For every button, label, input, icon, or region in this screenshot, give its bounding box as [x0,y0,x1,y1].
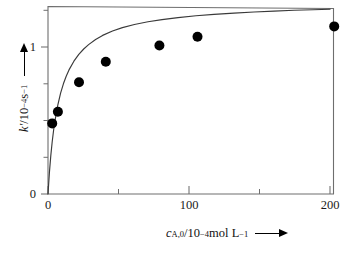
x-axis-label-units-exponent: −1 [239,229,248,239]
y-axis-label-units: s [17,94,32,99]
y-tick-label: 0 [30,187,36,201]
figure-container: 0 100 200 0 1 cA,0/10−4 mol L−1 k [0,0,348,254]
arrow-right-icon [255,229,289,238]
x-axis-label-divider: /10 [184,226,200,241]
x-axis-major-ticks [48,186,330,194]
fit-curve [48,9,330,194]
y-axis-label-divider: /10 [17,108,32,124]
y-axis-label-units-exponent: −1 [19,85,29,94]
plot-frame [48,7,334,195]
y-axis-minor-ticks [44,10,49,157]
y-axis-label: k′/10−4s−1 [14,8,34,132]
data-point [47,118,57,128]
x-axis-label-units: mol L [209,226,239,241]
data-point [74,77,84,87]
arrow-up-icon [20,42,29,76]
y-axis-label-exponent: −4 [19,99,29,108]
y-axis-label-symbol: k′ [17,124,32,132]
x-tick-label: 100 [180,198,199,212]
x-tick-label: 200 [321,198,340,212]
data-point [329,21,339,31]
data-point [154,41,164,51]
data-point [101,57,111,67]
data-point [193,32,203,42]
x-tick-label: 0 [45,198,51,212]
x-axis-label: cA,0/10−4 mol L−1 [166,226,289,241]
x-axis-label-exponent: −4 [200,229,209,239]
data-points [47,21,339,128]
x-axis-label-subscript: A,0 [172,229,185,239]
saturation-kinetics-plot: 0 100 200 0 1 [0,0,348,254]
data-point [53,107,63,117]
x-tick-labels: 0 100 200 [45,198,340,212]
